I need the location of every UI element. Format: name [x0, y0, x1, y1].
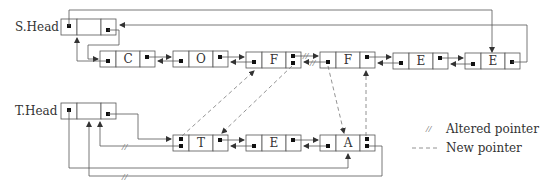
s-node-e2: E — [465, 53, 520, 69]
s-node-c: C — [100, 51, 155, 67]
new-pointers — [182, 66, 366, 136]
node-label: F — [344, 53, 352, 67]
s-node-e1: E — [393, 53, 448, 69]
s-node-f1: F — [246, 52, 301, 68]
t-node-t: T — [173, 135, 228, 151]
s-node-f2: F — [320, 52, 375, 68]
s-node-o: O — [173, 51, 228, 67]
node-label: F — [270, 53, 278, 67]
node-label: E — [417, 54, 426, 68]
legend-altered-label: Altered pointer — [445, 122, 539, 136]
altered-mark: // — [309, 58, 317, 67]
legend-altered-symbol: // — [425, 124, 433, 133]
t-node-a: A — [320, 135, 375, 151]
node-label: T — [197, 136, 205, 150]
node-label: C — [123, 52, 132, 66]
linked-list-diagram: S.Head T.Head C O — [0, 0, 540, 189]
s-head-label: S.Head — [15, 20, 59, 34]
altered-mark: // — [121, 172, 129, 181]
node-label: E — [489, 54, 498, 68]
node-label: O — [196, 52, 206, 66]
altered-mark: // — [302, 51, 310, 60]
node-label: A — [343, 136, 353, 150]
node-label: E — [270, 136, 279, 150]
t-node-e: E — [246, 135, 301, 151]
legend: // Altered pointer New pointer — [412, 122, 539, 155]
t-head-label: T.Head — [15, 104, 58, 118]
altered-mark: // — [121, 142, 129, 151]
legend-new-label: New pointer — [446, 141, 522, 155]
